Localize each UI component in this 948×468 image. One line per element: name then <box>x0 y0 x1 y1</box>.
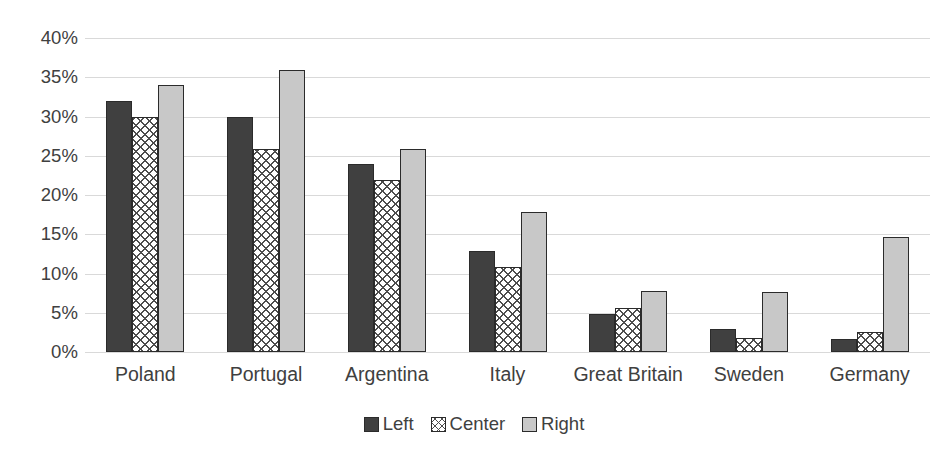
bar <box>106 101 132 352</box>
legend-swatch-icon <box>431 417 446 432</box>
bar-chart: 0%5%10%15%20%25%30%35%40% PolandPortugal… <box>0 0 948 468</box>
bar <box>710 329 736 352</box>
bar <box>400 149 426 352</box>
y-axis: 0%5%10%15%20%25%30%35%40% <box>0 0 78 468</box>
y-axis-tick-label: 0% <box>0 343 78 362</box>
y-axis-tick-label: 40% <box>0 29 78 48</box>
bar-group <box>589 38 667 352</box>
x-axis-tick-label: Germany <box>809 362 930 386</box>
bar <box>589 314 615 352</box>
legend-item[interactable]: Center <box>431 415 506 434</box>
x-axis-tick-label: Poland <box>85 362 206 386</box>
x-axis-tick-label: Portugal <box>206 362 327 386</box>
bar <box>132 117 158 353</box>
legend-label: Right <box>541 415 584 434</box>
y-axis-tick-label: 10% <box>0 265 78 284</box>
legend-label: Center <box>450 415 506 434</box>
bar <box>348 164 374 352</box>
bar <box>883 237 909 352</box>
x-axis-tick-label: Italy <box>447 362 568 386</box>
bar <box>279 70 305 352</box>
x-axis-tick-label: Argentina <box>326 362 447 386</box>
bar-group <box>710 38 788 352</box>
y-axis-tick-label: 30% <box>0 108 78 127</box>
bar-group <box>831 38 909 352</box>
plot-area <box>85 38 930 352</box>
legend: LeftCenterRight <box>0 415 948 434</box>
bar <box>857 332 883 352</box>
y-axis-tick-label: 35% <box>0 68 78 87</box>
x-axis-tick-label: Sweden <box>689 362 810 386</box>
bar <box>736 338 762 352</box>
bar-group <box>106 38 184 352</box>
bar <box>495 267 521 352</box>
y-axis-tick-label: 5% <box>0 304 78 323</box>
y-axis-tick-label: 20% <box>0 186 78 205</box>
bar-group <box>348 38 426 352</box>
legend-swatch-icon <box>522 417 537 432</box>
y-axis-tick-label: 15% <box>0 225 78 244</box>
bar <box>469 251 495 352</box>
y-axis-tick-label: 25% <box>0 147 78 166</box>
bar-group <box>469 38 547 352</box>
bar <box>521 212 547 353</box>
legend-item[interactable]: Right <box>522 415 584 434</box>
x-axis: PolandPortugalArgentinaItalyGreat Britai… <box>85 362 930 396</box>
x-axis-tick-label: Great Britain <box>568 362 689 386</box>
bar <box>158 85 184 352</box>
gridline <box>85 352 930 353</box>
bar <box>615 308 641 352</box>
bar <box>762 292 788 352</box>
bar <box>227 117 253 353</box>
legend-label: Left <box>383 415 414 434</box>
bar <box>641 291 667 352</box>
bar-group <box>227 38 305 352</box>
bar <box>831 339 857 352</box>
legend-swatch-icon <box>364 417 379 432</box>
bar <box>253 149 279 352</box>
bar <box>374 180 400 352</box>
legend-item[interactable]: Left <box>364 415 414 434</box>
